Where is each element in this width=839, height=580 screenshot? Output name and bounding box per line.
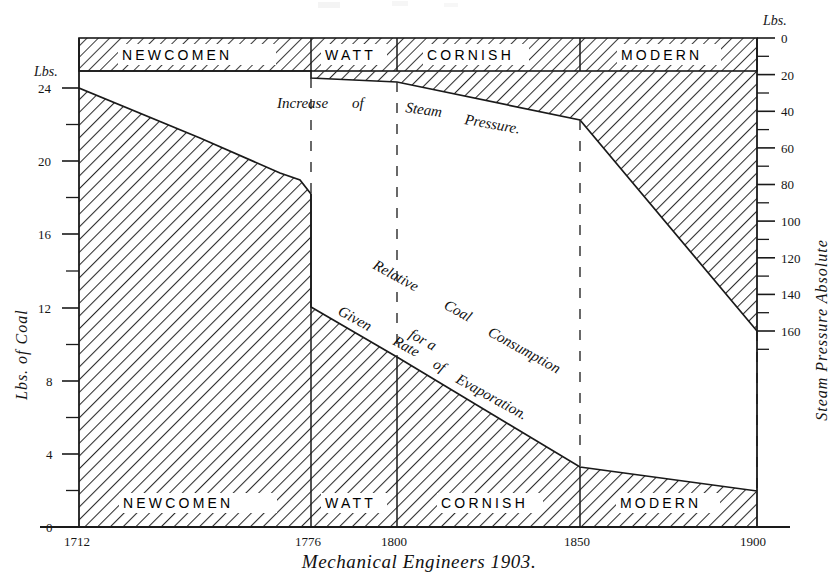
right-axis-unit-header: Lbs. bbox=[762, 13, 787, 28]
era-footer-label-newcomen: NEWCOMEN bbox=[123, 495, 233, 511]
chart-svg: NEWCOMEN WATT CORNISH MODERN bbox=[0, 0, 839, 580]
figure-root: NEWCOMEN WATT CORNISH MODERN bbox=[0, 0, 839, 580]
x-axis-tick-1776: 1776 bbox=[295, 534, 322, 549]
left-axis: Lbs. 24 20 16 12 8 4 0 Lbs. of Coal bbox=[13, 38, 79, 535]
right-axis-title: Steam Pressure Absolute bbox=[813, 239, 830, 421]
era-header-label-watt: WATT bbox=[325, 47, 376, 63]
era-footer-label-watt: WATT bbox=[325, 495, 376, 511]
annotation-pressure: Pressure. bbox=[462, 111, 521, 137]
annotation-of2: of bbox=[431, 356, 451, 377]
annotation-coal: Coal bbox=[442, 297, 475, 325]
annotation-steam-pressure: Increase of Steam Pressure. bbox=[276, 95, 521, 137]
left-axis-tick-16: 16 bbox=[38, 227, 52, 242]
annotation-consumption: Consumption bbox=[486, 324, 564, 377]
figure-caption: Mechanical Engineers 1903. bbox=[301, 551, 537, 572]
right-axis: Lbs. 0 20 40 60 80 100 120 140 160 Steam… bbox=[757, 13, 830, 527]
left-axis-tick-4: 4 bbox=[46, 447, 53, 462]
right-axis-tick-40: 40 bbox=[781, 104, 794, 119]
era-header-band: NEWCOMEN WATT CORNISH MODERN bbox=[79, 38, 757, 71]
right-axis-tick-140: 140 bbox=[781, 287, 801, 302]
x-axis-tick-1850: 1850 bbox=[564, 534, 590, 549]
era-header-label-modern: MODERN bbox=[621, 47, 702, 63]
right-axis-tick-160: 160 bbox=[781, 324, 801, 339]
x-axis-tick-1712: 1712 bbox=[64, 534, 90, 549]
annotation-of: of bbox=[352, 95, 366, 111]
era-header-label-cornish: CORNISH bbox=[427, 47, 514, 63]
annotation-relative: Relative bbox=[370, 256, 422, 294]
left-axis-unit-header: Lbs. bbox=[33, 64, 58, 79]
x-axis-tick-1800: 1800 bbox=[381, 534, 407, 549]
right-axis-tick-100: 100 bbox=[781, 214, 801, 229]
annotation-steam: Steam bbox=[405, 99, 444, 120]
right-axis-tick-120: 120 bbox=[781, 251, 801, 266]
left-axis-tick-8: 8 bbox=[46, 374, 53, 389]
left-axis-tick-24: 24 bbox=[38, 81, 52, 96]
left-axis-tick-20: 20 bbox=[38, 154, 51, 169]
left-axis-tick-12: 12 bbox=[38, 301, 51, 316]
page-smudge bbox=[318, 1, 458, 8]
x-axis-tick-1900: 1900 bbox=[740, 534, 766, 549]
bottom-axis: 1712 1776 1800 1850 1900 bbox=[40, 527, 790, 549]
right-axis-tick-60: 60 bbox=[781, 141, 794, 156]
right-axis-tick-0: 0 bbox=[781, 31, 788, 46]
left-axis-title: Lbs. of Coal bbox=[13, 309, 31, 401]
era-footer-label-modern: MODERN bbox=[620, 495, 701, 511]
era-header-label-newcomen: NEWCOMEN bbox=[122, 47, 232, 63]
annotation-increase: Increase bbox=[276, 95, 328, 111]
era-footer-label-cornish: CORNISH bbox=[441, 495, 528, 511]
right-axis-tick-80: 80 bbox=[781, 177, 794, 192]
right-axis-tick-20: 20 bbox=[781, 68, 794, 83]
